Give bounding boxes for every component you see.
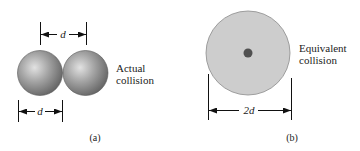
actual-collision-label-line2: collision [116, 74, 154, 86]
top-dimension-label: d [60, 28, 66, 40]
sphere-right [63, 51, 108, 96]
caption-b: (b) [286, 132, 298, 144]
caption-a: (a) [89, 132, 100, 144]
actual-collision-label-line1: Actual [116, 62, 145, 74]
top-dimension-d: d [41, 22, 87, 45]
dimension-2d-label: 2d [244, 104, 256, 116]
equivalent-collision-label-line2: collision [299, 54, 337, 66]
panel-a: d d Actual collision (a) [18, 22, 155, 144]
bottom-dimension-d: d [19, 100, 63, 122]
bottom-dimension-label: d [37, 105, 43, 117]
panel-b: 2d Equivalent collision (b) [206, 11, 347, 144]
collision-cross-section-figure: d d Actual collision (a) 2d Equivalent c… [0, 0, 360, 151]
equivalent-collision-label-line1: Equivalent [299, 42, 347, 54]
center-molecule-dot [244, 49, 253, 58]
sphere-left [18, 51, 63, 96]
